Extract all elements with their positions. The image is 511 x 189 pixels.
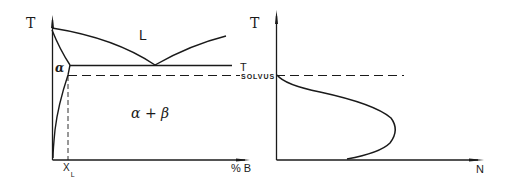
- xl-marker-label: XL: [63, 163, 74, 173]
- nucleation-rate-curve: [277, 75, 395, 159]
- right-y-axis-arrow-icon: [275, 10, 278, 24]
- right-x-axis-arrow-icon: [469, 159, 484, 162]
- liquidus-line-right: [155, 36, 226, 65]
- t-solvus-label-sub: SOLVUS: [241, 73, 275, 80]
- region-label-liquid: L: [139, 28, 147, 42]
- left-y-axis-arrow-icon: [51, 15, 54, 28]
- region-label-alpha: α: [55, 62, 64, 74]
- t-solvus-label-T: T: [240, 62, 247, 73]
- alpha-solvus: [53, 65, 70, 158]
- left-y-axis-label: T: [26, 16, 35, 30]
- alpha-solidus: [52, 30, 70, 65]
- xl-subscript: L: [71, 171, 75, 178]
- right-x-axis-label: N: [476, 164, 484, 175]
- region-label-alpha-beta: α + β: [131, 106, 169, 120]
- xl-main: X: [63, 162, 70, 173]
- left-x-axis-label: % B: [231, 163, 251, 174]
- right-y-axis-label: T: [250, 16, 259, 30]
